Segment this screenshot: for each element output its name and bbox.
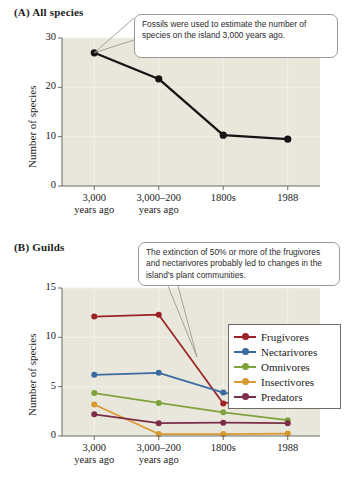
x-tick-label: 1988 <box>252 442 324 454</box>
y-tick-label: 30 <box>32 31 56 42</box>
y-tick-label: 20 <box>32 80 56 91</box>
y-tick-label: 0 <box>32 429 56 440</box>
y-tick-label: 10 <box>32 330 56 341</box>
x-tick-label: 3,000years ago <box>58 192 130 215</box>
x-tick-label: 1988 <box>252 192 324 204</box>
panel-b-guilds: (B) Guilds Number of species FrugivoresN… <box>0 236 346 479</box>
x-tick-label: 1800s <box>187 442 259 454</box>
x-tick-label: 3,000years ago <box>58 442 130 465</box>
y-tick-label: 0 <box>32 179 56 190</box>
x-tick-label: 3,000–200years ago <box>123 442 195 465</box>
figure-container: (A) All species Number of species Fossil… <box>0 0 346 479</box>
y-tick-label: 10 <box>32 130 56 141</box>
panel-a-all-species: (A) All species Number of species Fossil… <box>0 0 346 236</box>
y-tick-label: 15 <box>32 281 56 292</box>
x-tick-label: 3,000–200years ago <box>123 192 195 215</box>
x-tick-label: 1800s <box>187 192 259 204</box>
y-tick-label: 5 <box>32 380 56 391</box>
